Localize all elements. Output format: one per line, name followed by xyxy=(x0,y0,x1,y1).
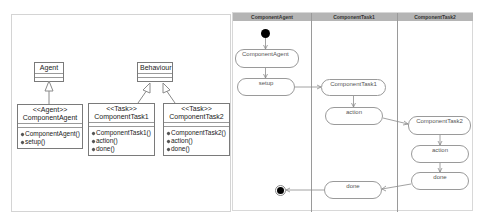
operations-compartment: ComponentTask2() action() done() xyxy=(164,127,229,155)
final-node[interactable] xyxy=(275,185,286,196)
class-component-task1[interactable]: <<Task>> ComponentTask1 ComponentTask1()… xyxy=(88,103,155,156)
swimlane-header-component-agent[interactable]: ComponentAgent xyxy=(233,13,311,21)
operations-compartment: ComponentTask1() action() done() xyxy=(89,127,154,155)
class-agent[interactable]: Agent xyxy=(34,62,64,82)
activity-task1-done[interactable]: done xyxy=(324,181,382,199)
swimlane-divider xyxy=(397,13,398,212)
operation-icon xyxy=(166,139,170,143)
operation-icon xyxy=(166,147,170,151)
initial-node[interactable] xyxy=(261,29,270,38)
operation: ComponentTask1() xyxy=(92,129,152,137)
class-component-agent[interactable]: <<Agent>> ComponentAgent ComponentAgent(… xyxy=(17,104,83,149)
class-name: Agent xyxy=(35,63,63,74)
operation-icon xyxy=(20,132,24,136)
class-name: Behaviour xyxy=(138,63,172,74)
operation: action() xyxy=(92,137,152,145)
activity-component-task2[interactable]: ComponentTask2 xyxy=(408,116,471,135)
operation-icon xyxy=(91,147,95,151)
final-node-dot xyxy=(277,187,284,194)
operation: action() xyxy=(167,137,227,145)
activity-task2-done[interactable]: done xyxy=(411,172,469,190)
activity-task2-action[interactable]: action xyxy=(411,145,469,163)
class-behaviour[interactable]: Behaviour xyxy=(137,62,173,82)
operations-compartment xyxy=(35,78,63,81)
class-header: <<Task>> ComponentTask2 xyxy=(164,104,229,123)
class-component-task2[interactable]: <<Task>> ComponentTask2 ComponentTask2()… xyxy=(163,103,230,156)
operation: setup() xyxy=(21,138,80,146)
stereotype: <<Task>> xyxy=(91,105,152,113)
activity-task1-action[interactable]: action xyxy=(325,107,383,125)
activity-component-task1[interactable]: ComponentTask1 xyxy=(321,79,386,96)
activity-component-agent[interactable]: ComponentAgent xyxy=(235,49,299,68)
swimlane-header-component-task2[interactable]: ComponentTask2 xyxy=(397,13,473,21)
operation: done() xyxy=(92,145,152,153)
operation: done() xyxy=(167,145,227,153)
stereotype: <<Task>> xyxy=(166,105,227,113)
class-header: <<Agent>> ComponentAgent xyxy=(18,105,82,124)
operation: ComponentAgent() xyxy=(21,130,80,138)
operation: ComponentTask2() xyxy=(167,129,227,137)
activity-setup[interactable]: setup xyxy=(237,78,295,96)
swimlane-header-component-task1[interactable]: ComponentTask1 xyxy=(311,13,397,21)
operation-icon xyxy=(91,131,95,135)
class-name: ComponentAgent xyxy=(23,114,77,121)
stereotype: <<Agent>> xyxy=(20,106,80,114)
swimlane-divider xyxy=(311,13,312,212)
operations-compartment xyxy=(138,78,172,81)
class-name: ComponentTask2 xyxy=(169,113,223,120)
operation-icon xyxy=(91,139,95,143)
operation-icon xyxy=(20,140,24,144)
class-header: <<Task>> ComponentTask1 xyxy=(89,104,154,123)
operation-icon xyxy=(166,131,170,135)
operations-compartment: ComponentAgent() setup() xyxy=(18,128,82,148)
class-name: ComponentTask1 xyxy=(94,113,148,120)
